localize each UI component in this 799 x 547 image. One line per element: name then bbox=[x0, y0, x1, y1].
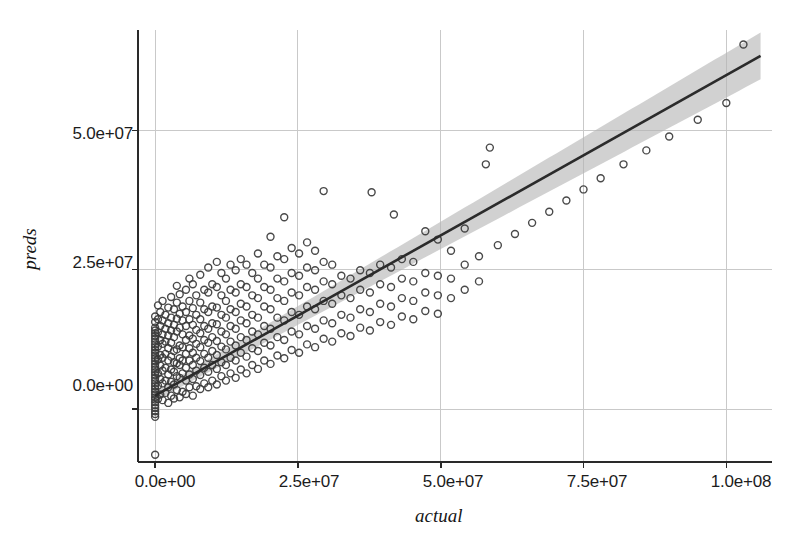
x-tick-label-0: 0.0e+00 bbox=[115, 472, 215, 492]
y-tick-label-5e7: 5.0e+07 bbox=[72, 124, 133, 144]
x-tick-label-7p5e7: 7.5e+07 bbox=[547, 472, 647, 492]
plot-canvas bbox=[0, 0, 799, 547]
scatter-plot-figure: 5.0e+07 2.5e+07 0.0e+00 0.0e+00 2.5e+07 … bbox=[0, 0, 799, 547]
y-axis-title: preds bbox=[19, 211, 41, 287]
x-tick-label-5e7: 5.0e+07 bbox=[403, 472, 503, 492]
x-axis-title: actual bbox=[415, 505, 463, 527]
y-tick-label-0: 0.0e+00 bbox=[72, 376, 133, 396]
y-tick-label-2p5e7: 2.5e+07 bbox=[72, 253, 133, 273]
x-tick-label-2p5e7: 2.5e+07 bbox=[259, 472, 359, 492]
x-tick-label-1e8: 1.0e+08 bbox=[691, 472, 791, 492]
